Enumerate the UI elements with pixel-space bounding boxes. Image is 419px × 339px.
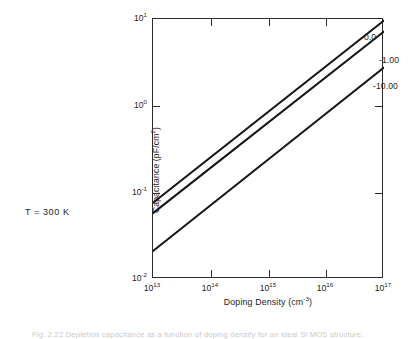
y-tick-label-10e1: 101	[119, 13, 147, 23]
series-label-0.0: 0.0	[364, 32, 376, 42]
x-tick-exp: 14	[211, 281, 218, 288]
x-axis-title: Doping Density (cm-3)	[224, 297, 312, 307]
x-tick-label-10e16: 1016	[317, 283, 333, 293]
y-tick-label-10e0: 100	[119, 100, 147, 110]
x-tick-label-10e15: 1015	[260, 283, 276, 293]
plot-area	[152, 18, 383, 278]
y-axis-tick-right	[375, 106, 382, 107]
series-line--10.00	[153, 68, 384, 252]
x-tick-exp: 15	[269, 281, 276, 288]
y-axis-tick	[153, 193, 160, 194]
x-tick-label-10e17: 1017	[375, 283, 391, 293]
series-label--1.00: -1.00	[379, 55, 399, 65]
x-tick-base: 10	[260, 283, 270, 293]
y-tick-label-10e-1: 10-1	[116, 187, 147, 197]
x-axis-tick	[211, 270, 212, 277]
x-axis-tick	[326, 270, 327, 277]
series-line-0.0	[153, 21, 384, 203]
y-tick-base: 10	[134, 100, 144, 110]
y-tick-exp: 0	[144, 98, 147, 105]
x-tick-exp: 17	[384, 281, 391, 288]
y-tick-exp: -2	[141, 271, 147, 278]
x-tick-exp: 13	[153, 281, 160, 288]
y-tick-exp: 1	[144, 11, 147, 18]
x-axis-tick	[269, 270, 270, 277]
x-tick-label-10e14: 1014	[202, 283, 218, 293]
x-tick-base: 10	[375, 283, 385, 293]
y-axis-tick	[153, 106, 160, 107]
series-line--1.00	[153, 32, 384, 214]
x-axis-tick-top	[326, 19, 327, 26]
figure-page: Capacitance (pF/cm2) 101 100 10-1 10-2 1…	[0, 0, 419, 339]
x-tick-base: 10	[144, 283, 154, 293]
x-axis-title-text: Doping Density (cm	[224, 297, 303, 307]
temperature-annotation: T = 300 K	[25, 207, 70, 217]
x-axis-tick-top	[211, 19, 212, 26]
x-tick-label-10e13: 1013	[144, 283, 160, 293]
x-tick-base: 10	[202, 283, 212, 293]
figure-caption: Fig. 2.22 Depletion capacitance as a fun…	[32, 330, 402, 339]
y-axis-tick-right	[375, 193, 382, 194]
x-axis-tick-top	[269, 19, 270, 26]
y-tick-base: 10	[134, 13, 144, 23]
data-series-group	[153, 19, 384, 279]
x-axis-title-tail: )	[309, 297, 312, 307]
x-tick-base: 10	[317, 283, 327, 293]
y-tick-label-10e-2: 10-2	[116, 273, 147, 283]
series-label--10.00: -10.00	[373, 81, 398, 91]
x-tick-exp: 16	[326, 281, 333, 288]
y-tick-exp: -1	[141, 185, 147, 192]
